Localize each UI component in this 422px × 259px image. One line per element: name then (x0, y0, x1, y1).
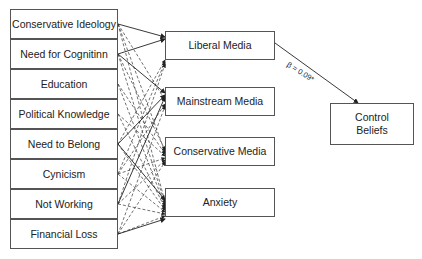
mediator-mainstream-media: Mainstream Media (165, 87, 275, 116)
predictor-political-knowledge: Political Knowledge (10, 99, 118, 129)
outcome-label-line1: Control (355, 111, 389, 124)
outcome-label-line2: Beliefs (355, 124, 389, 137)
predictor-need-for-cognition: Need for Cognitinn (10, 39, 118, 69)
predictor-financial-loss: Financial Loss (10, 219, 118, 249)
predictor-need-to-belong: Need to Belong (10, 129, 118, 159)
predictor-not-working: Not Working (10, 189, 118, 219)
predictor-education: Education (10, 69, 118, 99)
mediator-anxiety: Anxiety (165, 188, 275, 217)
mediator-conservative-media: Conservative Media (165, 137, 275, 166)
predictor-cynicism: Cynicism (10, 159, 118, 189)
predictor-conservative-ideology: Conservative Ideology (10, 9, 118, 39)
mediator-liberal-media: Liberal Media (165, 31, 275, 60)
outcome-control-beliefs: Control Beliefs (330, 103, 414, 145)
